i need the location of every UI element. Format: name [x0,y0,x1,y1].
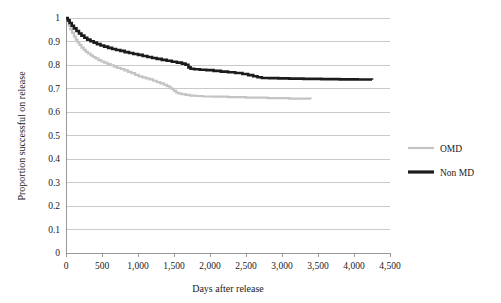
y-tick-label: 0.5 [48,131,60,141]
chart-background [0,0,501,303]
y-tick-label: 0.3 [48,178,60,188]
x-tick-label: 4,000 [343,261,365,271]
x-tick-label: 1,000 [127,261,149,271]
x-tick-label: 0 [64,261,69,271]
y-tick-label: 0.1 [48,225,60,235]
y-tick-label: 0.6 [48,107,60,117]
legend-label: Non MD [440,168,474,178]
survival-curve-chart: 00.10.20.30.40.50.60.70.80.91 05001,0001… [0,0,501,303]
legend-label: OMD [440,144,462,154]
x-tick-label: 4,500 [379,261,401,271]
y-tick-label: 0.4 [48,154,60,164]
x-tick-label: 500 [95,261,110,271]
y-tick-label: 0.7 [48,84,60,94]
x-tick-label: 1,500 [163,261,185,271]
y-axis-title: Proportion successful on release [16,71,27,201]
y-tick-label: 0.9 [48,37,60,47]
y-tick-label: 0.8 [48,60,60,70]
x-axis-title: Days after release [192,283,264,294]
x-tick-label: 2,000 [199,261,221,271]
x-tick-label: 3,000 [271,261,293,271]
y-tick-label: 0 [55,248,60,258]
y-tick-label: 0.2 [48,201,60,211]
x-tick-label: 2,500 [235,261,257,271]
chart-figure: 00.10.20.30.40.50.60.70.80.91 05001,0001… [0,0,501,303]
x-tick-label: 3,500 [307,261,329,271]
y-tick-label: 1 [55,13,60,23]
